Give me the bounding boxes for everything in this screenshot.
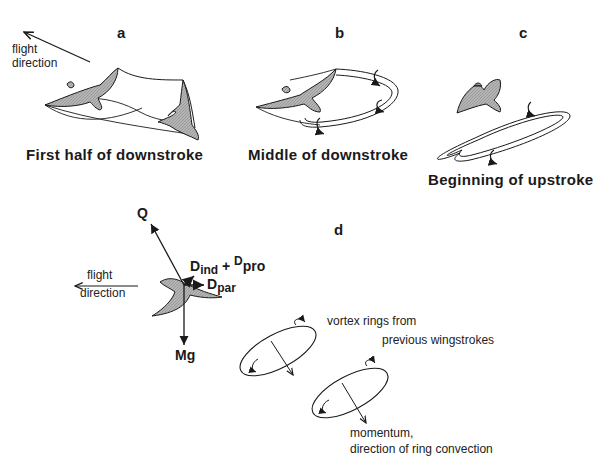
momentum-vector <box>342 383 366 423</box>
panel-c-caption: Beginning of upstroke <box>428 171 593 188</box>
vortex-note-line1: vortex rings from <box>327 314 494 328</box>
parasite-drag-label: Dpar <box>207 276 236 295</box>
induced-profile-drag-label: Dind + Dpro <box>190 254 265 277</box>
panel-a-caption: First half of downstroke <box>26 146 203 163</box>
panel-b-drawing <box>256 69 398 134</box>
bird-icon <box>45 68 118 110</box>
lift-vector <box>151 224 184 285</box>
flight-direction-label-d: flight direction <box>80 268 125 300</box>
momentum-note: momentum, direction of ring convection <box>350 426 493 456</box>
flight-label-line1: flight <box>12 42 57 56</box>
parasite-drag-sub: par <box>217 281 236 295</box>
panel-c-label: c <box>519 24 527 41</box>
flight-label-line2: direction <box>80 286 125 300</box>
vortex-rings-note: vortex rings from previous wingstrokes <box>327 314 494 347</box>
flight-direction-label-a: flight direction <box>12 42 57 70</box>
flight-label-line1: flight <box>80 268 125 282</box>
panel-a-label: a <box>117 24 125 41</box>
panel-d-label: d <box>334 221 343 238</box>
momentum-note-line1: momentum, <box>350 426 493 440</box>
plus-sign: + <box>222 258 230 274</box>
vortex-ring <box>305 358 395 427</box>
flight-label-line2: direction <box>12 56 57 70</box>
diagram-canvas <box>0 0 611 468</box>
bird-icon <box>256 69 336 112</box>
panel-b-label: b <box>335 24 344 41</box>
panel-c-drawing <box>437 79 570 164</box>
momentum-note-line2: direction of ring convection <box>350 442 493 456</box>
lift-label: Q <box>137 205 148 221</box>
panel-b-caption: Middle of downstroke <box>248 146 408 163</box>
parasite-drag-base: D <box>207 276 217 292</box>
bird-icon <box>158 80 199 140</box>
profile-drag-sub: pro <box>243 258 266 274</box>
bird-icon <box>457 79 501 113</box>
vortex-note-line2: previous wingstrokes <box>327 333 494 347</box>
weight-label: Mg <box>175 347 195 363</box>
profile-drag-base: D <box>234 254 243 268</box>
induced-drag-sub: ind <box>200 263 218 277</box>
momentum-vector <box>271 341 293 375</box>
induced-drag-base: D <box>190 258 200 274</box>
induced-drag-vector <box>184 276 194 285</box>
